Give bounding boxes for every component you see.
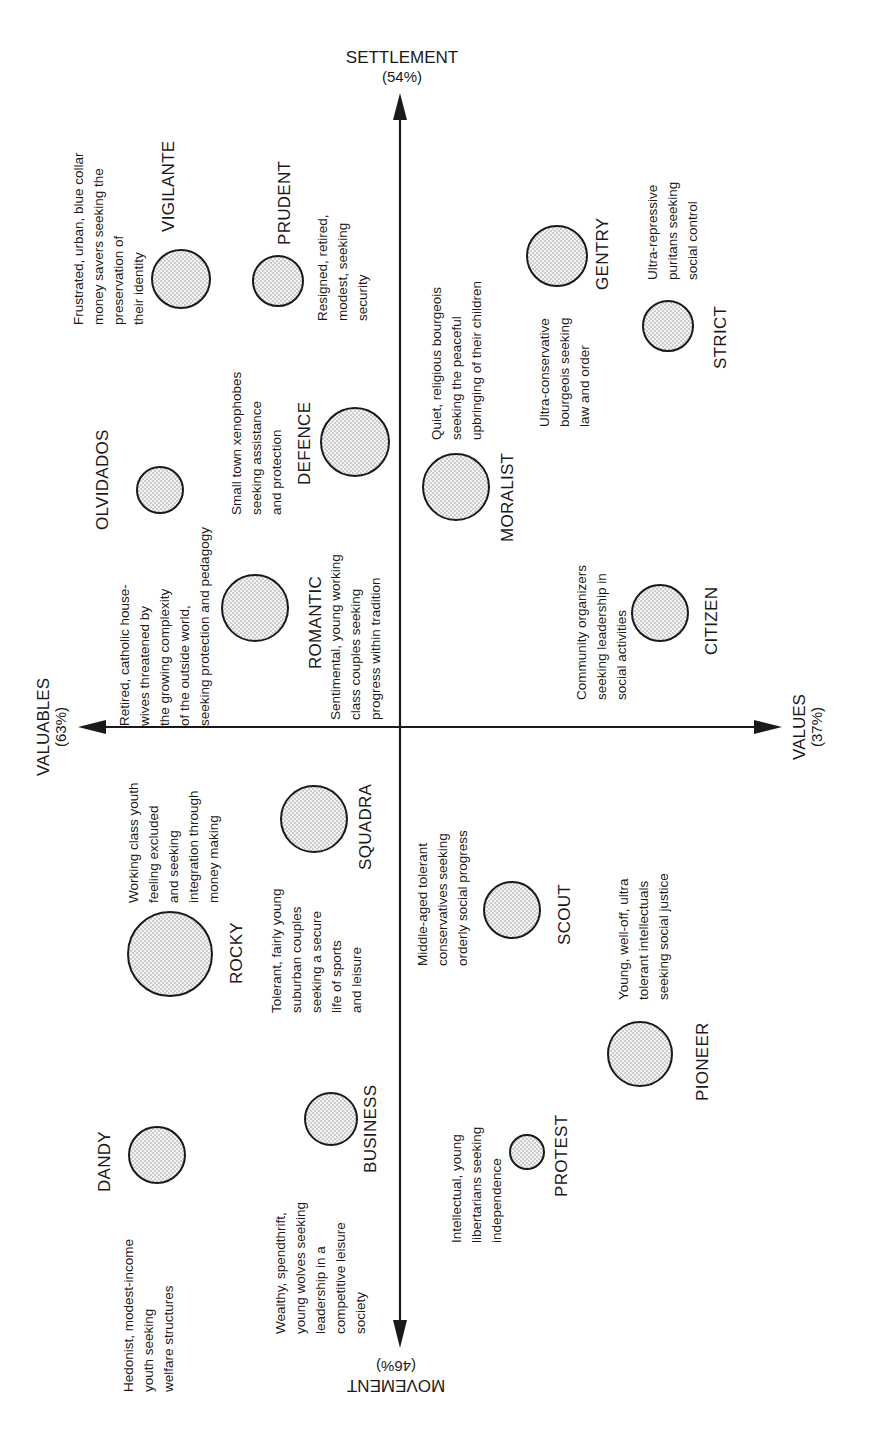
bubble	[632, 585, 688, 641]
svg-text:modest, seeking: modest, seeking	[335, 223, 350, 321]
svg-text:money making: money making	[206, 815, 221, 903]
svg-text:of the outside world,: of the outside world,	[177, 605, 192, 726]
svg-text:suburban couples: suburban couples	[289, 906, 304, 1013]
segment-protest: PROTEST Intellectual, young libertarians…	[449, 1115, 571, 1243]
bubble	[137, 467, 183, 513]
svg-text:their identity: their identity	[131, 252, 146, 325]
svg-text:money savers seeking the: money savers seeking the	[91, 168, 106, 325]
svg-text:Middle-aged tolerant: Middle-aged tolerant	[415, 843, 430, 966]
bubble	[152, 250, 210, 308]
svg-text:welfare structures: welfare structures	[161, 1285, 176, 1393]
svg-text:VALUABLES: VALUABLES	[34, 678, 53, 776]
svg-text:leadership in a: leadership in a	[313, 1246, 328, 1334]
svg-text:(63%): (63%)	[52, 707, 69, 747]
svg-text:SQUADRA: SQUADRA	[356, 783, 375, 870]
svg-text:Hedonist, modest-income: Hedonist, modest-income	[121, 1239, 136, 1392]
bubble	[484, 882, 540, 938]
svg-text:seeking leadership in: seeking leadership in	[594, 573, 609, 700]
svg-text:conservatives seeking: conservatives seeking	[435, 833, 450, 966]
svg-text:seeking the peaceful: seeking the peaceful	[449, 316, 464, 440]
svg-text:tolerant intellectuals: tolerant intellectuals	[636, 880, 651, 1000]
svg-text:seeking protection and pedagog: seeking protection and pedagogy	[197, 527, 212, 726]
bubble	[281, 786, 347, 852]
svg-text:youth seeking: youth seeking	[141, 1309, 156, 1392]
bubble	[510, 1135, 544, 1169]
svg-text:OLVIDADOS: OLVIDADOS	[93, 429, 112, 530]
svg-text:Intellectual, young: Intellectual, young	[449, 1134, 464, 1243]
svg-text:VIGILANTE: VIGILANTE	[159, 140, 178, 232]
bubble	[129, 1127, 185, 1183]
svg-text:and seeking: and seeking	[166, 830, 181, 903]
segment-moralist: MORALIST Quiet, religious bourgeois seek…	[423, 281, 517, 542]
axis-label-movement: MOVEMENT (46%)	[347, 1358, 445, 1395]
axis-label-settlement: SETTLEMENT (54%)	[346, 48, 458, 85]
svg-text:DEFENCE: DEFENCE	[295, 402, 314, 485]
svg-text:(46%): (46%)	[376, 1358, 416, 1375]
svg-text:PROTEST: PROTEST	[552, 1115, 571, 1197]
svg-text:seeking a secure: seeking a secure	[309, 911, 324, 1013]
bubble	[643, 301, 693, 351]
segment-olvidados: OLVIDADOS Retired, catholic house- wives…	[93, 429, 212, 727]
arrow-up-icon	[393, 93, 407, 120]
segment-pioneer: PIONEER Young, well-off, ultra tolerant …	[608, 873, 712, 1101]
bubble	[253, 256, 303, 306]
svg-text:Quiet, religious bourgeois: Quiet, religious bourgeois	[429, 287, 444, 440]
svg-text:Working class youth: Working class youth	[126, 782, 141, 903]
svg-text:integration through: integration through	[186, 790, 201, 903]
segment-squadra: SQUADRA Tolerant, fairly young suburban …	[269, 783, 375, 1013]
svg-text:BUSINESS: BUSINESS	[361, 1085, 380, 1173]
svg-text:Community organizers: Community organizers	[574, 565, 589, 700]
svg-text:wives threatened by: wives threatened by	[137, 606, 152, 727]
svg-text:and protection: and protection	[269, 429, 284, 515]
svg-text:GENTRY: GENTRY	[593, 218, 612, 290]
axis-label-valuables: VALUABLES (63%)	[34, 678, 69, 776]
bubble	[527, 226, 587, 286]
svg-text:ROCKY: ROCKY	[227, 922, 246, 984]
arrow-down-icon	[393, 1320, 407, 1348]
segment-business: BUSINESS Wealthy, spendthrift, young wol…	[273, 1085, 380, 1334]
svg-text:PRUDENT: PRUDENT	[275, 161, 294, 245]
arrow-right-icon	[754, 720, 782, 734]
segment-vigilante: VIGILANTE Frustrated, urban, blue collar…	[71, 140, 210, 325]
segment-rocky: ROCKY Working class youth feeling exclud…	[126, 782, 246, 996]
segment-prudent: PRUDENT Resigned, retired, modest, seeki…	[253, 161, 370, 321]
axis-label-values: VALUES (37%)	[790, 694, 825, 760]
svg-text:Resigned, retired,: Resigned, retired,	[315, 214, 330, 321]
svg-text:Sentimental, young working: Sentimental, young working	[328, 554, 343, 720]
bubble	[423, 454, 489, 520]
svg-text:libertarians seeking: libertarians seeking	[469, 1127, 484, 1243]
segment-citizen: CITIZEN Community organizers seeking lea…	[574, 565, 721, 700]
segmentation-map: SETTLEMENT (54%) MOVEMENT (46%) VALUABLE…	[0, 0, 875, 1452]
svg-text:competitive leisure: competitive leisure	[333, 1222, 348, 1334]
svg-text:(37%): (37%)	[808, 707, 825, 747]
svg-text:MOVEMENT: MOVEMENT	[347, 1376, 445, 1395]
svg-text:class couples seeking: class couples seeking	[348, 589, 363, 720]
segment-strict: STRICT Ultra-repressive puritans seeking…	[643, 182, 730, 369]
svg-text:Ultra-conservative: Ultra-conservative	[537, 318, 552, 427]
svg-text:seeking social justice: seeking social justice	[656, 873, 671, 1000]
bubble	[608, 1022, 672, 1086]
svg-text:security: security	[355, 274, 370, 321]
segment-romantic: ROMANTIC Sentimental, young working clas…	[222, 554, 383, 720]
svg-text:puritans seeking: puritans seeking	[665, 182, 680, 280]
segment-scout: SCOUT Middle-aged tolerant conservatives…	[415, 830, 574, 966]
svg-text:independence: independence	[489, 1158, 504, 1243]
svg-text:CITIZEN: CITIZEN	[702, 587, 721, 655]
svg-text:the growing complexity: the growing complexity	[157, 588, 172, 726]
svg-text:law and order: law and order	[577, 345, 592, 427]
segment-dandy: DANDY Hedonist, modest-income youth seek…	[95, 1127, 185, 1393]
svg-text:bourgeois seeking: bourgeois seeking	[557, 317, 572, 427]
svg-text:and leisure: and leisure	[349, 947, 364, 1013]
svg-text:PIONEER: PIONEER	[693, 1022, 712, 1101]
svg-text:Tolerant, fairly young: Tolerant, fairly young	[269, 888, 284, 1013]
svg-text:Retired, catholic house-: Retired, catholic house-	[117, 584, 132, 726]
svg-text:orderly social progress: orderly social progress	[455, 830, 470, 966]
arrow-left-icon	[78, 720, 106, 734]
svg-text:Ultra-repressive: Ultra-repressive	[645, 185, 660, 280]
svg-text:SCOUT: SCOUT	[555, 884, 574, 945]
bubble	[305, 1093, 357, 1145]
svg-text:Young, well-off, ultra: Young, well-off, ultra	[616, 878, 631, 1000]
svg-text:feeling excluded: feeling excluded	[146, 805, 161, 903]
bubble	[222, 575, 288, 641]
svg-text:(54%): (54%)	[382, 68, 422, 85]
